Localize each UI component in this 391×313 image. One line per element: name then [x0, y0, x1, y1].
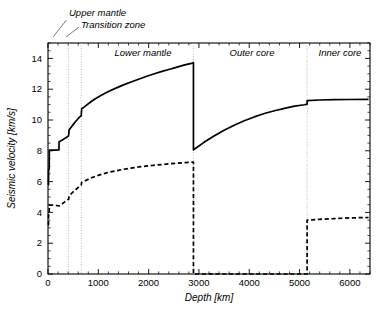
y-tick-label: 8	[37, 145, 42, 156]
upper-mantle-label: Upper mantle	[69, 7, 126, 18]
x-tick-label: 4000	[239, 277, 260, 288]
x-tick-label: 3000	[188, 277, 209, 288]
y-tick-label: 0	[37, 268, 42, 279]
x-tick-label: 0	[45, 277, 50, 288]
inner-core-label: Inner core	[319, 47, 362, 58]
x-axis-title: Depth [km]	[185, 292, 234, 303]
x-tick-label: 5000	[289, 277, 310, 288]
seismic-velocity-chart: 0 1000 2000 3000 4000 5000 6000 0 2 4 6 …	[0, 0, 391, 313]
x-tick-label: 6000	[339, 277, 360, 288]
y-tick-label: 14	[31, 53, 42, 64]
y-tick-label: 10	[31, 114, 42, 125]
y-axis-title: Seismic velocity [km/s]	[6, 108, 17, 209]
y-tick-label: 2	[37, 237, 42, 248]
x-tick-label: 2000	[138, 277, 159, 288]
lower-mantle-label: Lower mantle	[114, 47, 171, 58]
chart-svg: 0 1000 2000 3000 4000 5000 6000 0 2 4 6 …	[0, 0, 391, 313]
y-tick-label: 4	[37, 207, 42, 218]
y-tick-label: 12	[31, 83, 42, 94]
x-tick-label: 1000	[88, 277, 109, 288]
outer-core-label: Outer core	[230, 47, 275, 58]
y-tick-label: 6	[37, 176, 42, 187]
transition-zone-label: Transition zone	[81, 19, 145, 30]
